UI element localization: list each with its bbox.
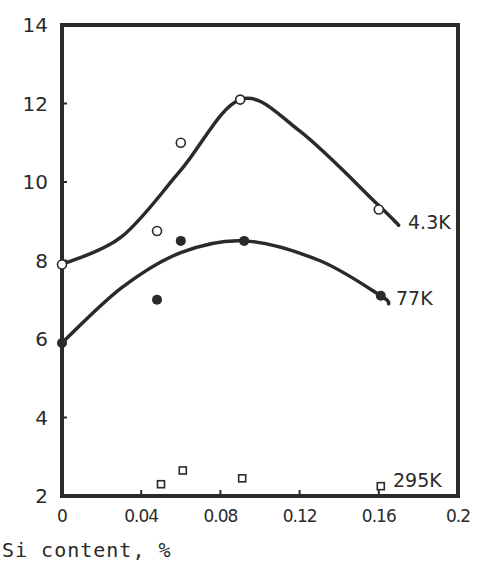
x-axis-label: Si content, %	[2, 538, 172, 562]
open-circle-marker	[153, 227, 162, 236]
open-square-marker	[179, 467, 186, 474]
y-tick-label: 4	[35, 406, 48, 430]
x-tick-label: 0.16	[362, 506, 396, 526]
open-circle-marker	[236, 95, 245, 104]
x-tick-label: 0.04	[124, 506, 158, 526]
y-tick-label: 14	[23, 13, 48, 37]
filled-circle-marker	[176, 236, 186, 246]
open-square-marker	[158, 481, 165, 488]
label-4-3k: 4.3K	[408, 211, 451, 233]
open-circle-marker	[58, 260, 67, 269]
y-tick-label: 8	[35, 249, 48, 273]
open-square-marker	[239, 475, 246, 482]
filled-circle-marker	[239, 236, 249, 246]
open-square-marker	[377, 483, 384, 490]
label-77k: 77K	[396, 287, 433, 309]
filled-circle-marker	[152, 295, 162, 305]
x-tick-label: 0	[57, 506, 67, 526]
open-circle-marker	[374, 205, 383, 214]
y-tick-label: 12	[23, 92, 48, 116]
y-tick-label: 2	[35, 484, 48, 508]
y-tick-label: 6	[35, 327, 48, 351]
open-circle-marker	[176, 138, 185, 147]
plot-frame	[62, 25, 458, 496]
label-295k: 295K	[393, 469, 442, 491]
filled-circle-marker	[376, 291, 386, 301]
x-tick-label: 0.08	[203, 506, 237, 526]
filled-circle-marker	[57, 338, 67, 348]
y-tick-label: 10	[23, 170, 48, 194]
x-tick-label: 0.2	[446, 506, 470, 526]
fit-curve-77k	[62, 241, 389, 343]
chart-canvas: 246810121400.040.080.120.160.24.3K77K295…	[0, 0, 488, 582]
x-tick-label: 0.12	[283, 506, 317, 526]
